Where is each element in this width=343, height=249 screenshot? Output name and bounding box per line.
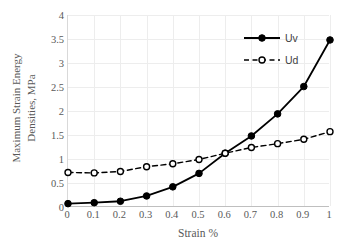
legend-item-ud[interactable]: Ud bbox=[243, 49, 313, 71]
y-axis-title-line1: Maximum Strain Energy bbox=[9, 53, 24, 162]
data-point-marker-uv bbox=[91, 199, 98, 206]
x-axis-tick-label: 0.3 bbox=[139, 209, 152, 220]
data-point-marker-uv bbox=[248, 133, 255, 140]
data-point-marker-ud bbox=[248, 144, 254, 150]
y-axis-tick-label: 1 bbox=[59, 154, 64, 165]
data-point-marker-uv bbox=[327, 37, 334, 44]
data-point-marker-uv bbox=[143, 193, 150, 200]
x-axis-tick-label: 0.1 bbox=[87, 209, 100, 220]
x-axis-tick-label: 0.4 bbox=[165, 209, 178, 220]
x-axis-tick-label: 0.8 bbox=[270, 209, 283, 220]
data-point-marker-uv bbox=[301, 83, 308, 90]
data-point-marker-ud bbox=[91, 170, 97, 176]
y-axis-title-line2: Densities, MPa bbox=[24, 53, 39, 162]
legend-marker-uv-icon bbox=[243, 31, 281, 45]
y-axis-tick-label: 0 bbox=[59, 202, 64, 213]
data-point-marker-ud bbox=[144, 164, 150, 170]
data-point-marker-uv bbox=[196, 170, 203, 177]
y-axis-tick-label: 3 bbox=[59, 58, 64, 69]
y-axis-title: Maximum Strain Energy Densities, MPa bbox=[6, 0, 42, 215]
legend-label-uv: Uv bbox=[285, 32, 298, 44]
x-axis-tick-label: 0.6 bbox=[218, 209, 231, 220]
legend-marker-ud-icon bbox=[243, 53, 281, 67]
data-point-marker-ud bbox=[327, 129, 333, 135]
x-axis-tick-labels: 00.10.20.30.40.50.60.70.80.91 bbox=[67, 209, 329, 225]
series-line-ud bbox=[68, 132, 330, 173]
data-point-marker-uv bbox=[274, 111, 281, 118]
y-axis-tick-label: 1.5 bbox=[51, 130, 64, 141]
y-axis-tick-label: 4 bbox=[59, 10, 64, 21]
data-point-marker-ud bbox=[196, 156, 202, 162]
data-point-marker-uv bbox=[170, 184, 177, 191]
data-point-marker-ud bbox=[275, 141, 281, 147]
legend-item-uv[interactable]: Uv bbox=[243, 27, 313, 49]
y-axis-tick-label: 0.5 bbox=[51, 178, 64, 189]
chart-container: Maximum Strain Energy Densities, MPa 00.… bbox=[0, 0, 343, 249]
y-axis-tick-label: 2 bbox=[59, 106, 64, 117]
data-point-marker-ud bbox=[117, 168, 123, 174]
data-point-marker-ud bbox=[301, 136, 307, 142]
data-point-marker-uv bbox=[117, 198, 124, 205]
data-point-marker-ud bbox=[65, 169, 71, 175]
legend-label-ud: Ud bbox=[285, 54, 298, 66]
x-axis-tick-label: 0.2 bbox=[113, 209, 126, 220]
data-point-marker-ud bbox=[222, 150, 228, 156]
x-axis-tick-label: 0.9 bbox=[296, 209, 309, 220]
data-point-marker-uv bbox=[65, 200, 72, 207]
chart-legend: UvUd bbox=[243, 27, 313, 71]
x-axis-tick-label: 0.5 bbox=[191, 209, 204, 220]
data-point-marker-ud bbox=[170, 161, 176, 167]
y-axis-tick-label: 2.5 bbox=[51, 82, 64, 93]
y-axis-tick-label: 3.5 bbox=[51, 34, 64, 45]
y-axis-tick-labels: 00.511.522.533.54 bbox=[40, 15, 64, 207]
x-axis-tick-label: 0 bbox=[64, 209, 69, 220]
x-axis-tick-label: 1 bbox=[326, 209, 331, 220]
x-axis-title: Strain % bbox=[67, 227, 329, 239]
x-axis-tick-label: 0.7 bbox=[244, 209, 257, 220]
